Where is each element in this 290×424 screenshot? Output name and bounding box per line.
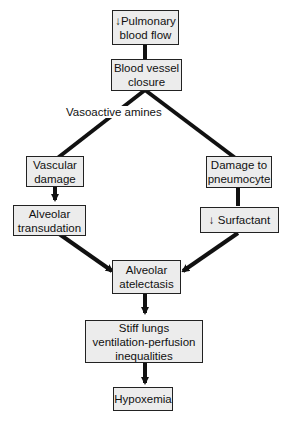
node-reduced-surfactant: ↓ Surfactant [200, 207, 279, 233]
node-label: Vascular damage [33, 158, 77, 186]
node-hypoxemia: Hypoxemia [113, 387, 173, 411]
node-damage-to-pneumocyte: Damage to pneumocyte [206, 156, 272, 188]
node-label: ↓ Surfactant [209, 213, 270, 227]
node-blood-vessel-closure: Blood vessel closure [111, 59, 182, 91]
node-vascular-damage: Vascular damage [26, 156, 84, 187]
node-alveolar-atelectasis: Alveolar atelectasis [112, 260, 181, 294]
node-stiff-lungs: Stiff lungs ventilation-perfusion inequa… [85, 320, 203, 363]
node-label: ↓Pulmonary blood flow [115, 14, 176, 42]
node-label: Blood vessel closure [114, 61, 179, 89]
node-label: Alveolar transudation [18, 207, 81, 235]
edge-label-vasoactive-amines: Vasoactive amines [65, 106, 163, 118]
node-label: Hypoxemia [114, 392, 172, 406]
node-label: Damage to pneumocyte [208, 158, 271, 186]
node-reduced-pulmonary-blood-flow: ↓Pulmonary blood flow [112, 10, 179, 45]
node-label: Stiff lungs ventilation-perfusion inequa… [93, 321, 196, 363]
flowchart: ↓Pulmonary blood flow Blood vessel closu… [0, 0, 290, 424]
node-label: Alveolar atelectasis [119, 263, 173, 291]
node-alveolar-transudation: Alveolar transudation [13, 205, 86, 236]
